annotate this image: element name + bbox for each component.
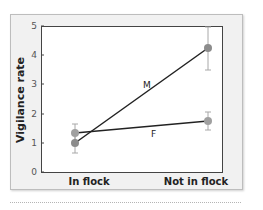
series-m-label: M [143, 80, 151, 90]
y-tick-2: 2 [31, 109, 37, 119]
marker-m-not-in-flock [204, 44, 212, 52]
plot-frame [42, 27, 223, 173]
y-tick-0: 0 [31, 167, 37, 177]
series-f-label: F [151, 129, 156, 139]
y-tick-5: 5 [31, 21, 37, 31]
y-tick-1: 1 [31, 138, 37, 148]
y-tick-3: 3 [31, 79, 37, 89]
marker-f-in-flock [71, 129, 79, 137]
x-label-in-flock: In flock [68, 176, 110, 187]
marker-m-in-flock [71, 139, 79, 147]
chart: 0 1 2 3 4 5 M F In [0, 0, 263, 210]
y-axis-title: Vigilance rate [14, 57, 27, 143]
marker-f-not-in-flock [204, 117, 212, 125]
divider [10, 202, 241, 203]
y-tick-4: 4 [31, 50, 37, 60]
x-label-not-in-flock: Not in flock [164, 176, 229, 187]
